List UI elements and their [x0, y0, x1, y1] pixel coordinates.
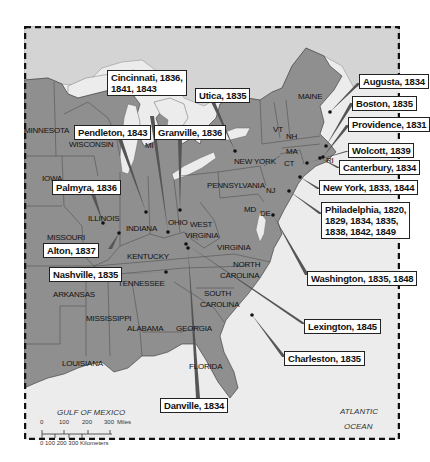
location-dot	[164, 270, 168, 274]
location-dot	[117, 231, 121, 235]
location-label-line: Granville, 1836	[158, 127, 222, 138]
state-label: MI	[145, 141, 154, 150]
scale-miles-unit: Miles	[117, 419, 131, 425]
state-label: ILLINOIS	[88, 214, 119, 223]
location-label-line: New York, 1833, 1844	[323, 182, 414, 193]
state-label: MAINE	[298, 92, 322, 101]
state-label: MINNESOTA	[24, 126, 69, 135]
state-label: MA	[286, 147, 298, 156]
location-dot	[318, 156, 322, 160]
state-label: CAROLINA	[220, 271, 259, 280]
state-label: NORTH	[233, 260, 260, 269]
location-label: Danville, 1834	[160, 398, 228, 413]
location-dot	[328, 110, 332, 114]
location-label: Augusta, 1834	[359, 74, 429, 89]
location-label-line: Boston, 1835	[356, 98, 413, 109]
location-label-line: Lexington, 1845	[308, 321, 377, 332]
location-label: Charleston, 1835	[284, 351, 365, 366]
location-label: Washington, 1835, 1848	[307, 271, 417, 286]
state-label: CT	[284, 159, 294, 168]
location-label: Granville, 1836	[154, 125, 226, 140]
state-label: VIRGINIA	[217, 243, 251, 252]
location-label: Lexington, 1845	[304, 319, 381, 334]
scale-mile-100: 100	[59, 419, 69, 425]
location-dot	[298, 175, 302, 179]
state-label: DE	[260, 209, 271, 218]
location-dot	[250, 313, 254, 317]
state-label: NEW YORK	[234, 157, 276, 166]
location-label-line: Danville, 1834	[164, 400, 224, 411]
location-dot	[305, 161, 309, 165]
state-label: FLORIDA	[189, 362, 222, 371]
scale-mile-300: 300	[104, 419, 114, 425]
water-label: OCEAN	[344, 422, 372, 431]
state-label: VT	[273, 125, 283, 134]
state-label: OHIO	[168, 218, 188, 227]
state-label: NH	[286, 132, 297, 141]
water-label: GULF OF MEXICO	[57, 408, 125, 417]
scale-mile-200: 200	[82, 419, 92, 425]
location-label-line: Washington, 1835, 1848	[311, 273, 413, 284]
location-label-line: Canterbury, 1834	[343, 162, 416, 173]
water-label: ATLANTIC	[340, 407, 378, 416]
location-dot	[144, 210, 148, 214]
state-label: KENTUCKY	[127, 252, 169, 261]
location-label: Utica, 1835	[195, 88, 250, 103]
location-label-line: Alton, 1837	[47, 245, 95, 256]
location-label: Nashville, 1835	[49, 267, 122, 282]
location-label-line: Palmyra, 1836	[56, 182, 117, 193]
location-label-line: Charleston, 1835	[288, 353, 361, 364]
state-label: CAROLINA	[200, 300, 239, 309]
location-dot	[166, 230, 170, 234]
location-label: Alton, 1837	[43, 243, 99, 258]
location-dot	[184, 242, 188, 246]
state-label: PENNSYLVANIA	[207, 181, 265, 190]
location-label-line: Pendleton, 1843	[78, 127, 147, 138]
location-dot	[186, 246, 190, 250]
location-label: Cincinnati, 1836,1841, 1843	[107, 70, 187, 96]
state-label: GEORGIA	[176, 324, 212, 333]
location-label-line: Philadelphia, 1820,	[325, 204, 406, 215]
location-label: Canterbury, 1834	[339, 160, 420, 175]
location-label: Providence, 1831	[348, 117, 430, 132]
location-label: Boston, 1835	[352, 96, 417, 111]
location-label: Philadelphia, 1820,1829, 1834, 1835,1838…	[321, 202, 410, 239]
state-label: MISSOURI	[47, 233, 85, 242]
scale-km-text: 0 100 200 300 Kilometers	[40, 440, 108, 446]
state-label: ARKANSAS	[53, 290, 95, 299]
location-dot	[324, 144, 328, 148]
location-dot	[287, 189, 291, 193]
location-label: Wolcott, 1839	[348, 143, 414, 158]
location-label: New York, 1833, 1844	[319, 180, 418, 195]
scale-mile-0: 0	[40, 419, 43, 425]
state-label: VIRGINIA	[185, 231, 219, 240]
location-label-line: 1838, 1842, 1849	[325, 226, 406, 237]
state-label: WEST	[190, 220, 212, 229]
location-label-line: Wolcott, 1839	[352, 145, 410, 156]
location-label-line: Augusta, 1834	[363, 76, 425, 87]
map-frame: MINNESOTAWISCONSINMIIOWAILLINOISMISSOURI…	[24, 26, 400, 440]
state-label: NJ	[266, 186, 275, 195]
location-label: Pendleton, 1843	[74, 125, 151, 140]
state-label: TENNESSEE	[118, 279, 165, 288]
state-label: INDIANA	[126, 224, 157, 233]
state-label: RI	[326, 156, 334, 165]
location-label-line: 1841, 1843	[111, 83, 183, 94]
location-label-line: Nashville, 1835	[53, 269, 118, 280]
location-label-line: 1829, 1834, 1835,	[325, 215, 406, 226]
location-dot	[271, 213, 275, 217]
location-label-line: Utica, 1835	[199, 90, 246, 101]
state-label: WISCONSIN	[69, 140, 113, 149]
location-label-line: Providence, 1831	[352, 119, 426, 130]
location-label-line: Cincinnati, 1836,	[111, 72, 183, 83]
state-label: ALABAMA	[127, 324, 163, 333]
state-label: MISSISSIPPI	[86, 314, 131, 323]
location-dot	[233, 149, 237, 153]
state-label: LOUISIANA	[62, 359, 103, 368]
state-label: MD	[244, 205, 256, 214]
location-label: Palmyra, 1836	[52, 180, 121, 195]
state-label: SOUTH	[204, 289, 231, 298]
location-dot	[178, 208, 182, 212]
